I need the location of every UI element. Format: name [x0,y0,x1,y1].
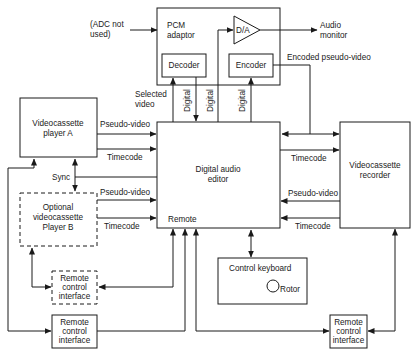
vcp-b-label-3: Player B [43,223,74,232]
vcp-b-label-1: Optional [43,203,74,212]
remote-if-left-label-1: Remote [60,318,89,327]
vcp-a-label-1: Videocassette [32,119,84,128]
vcp-a-label-2: player A [43,129,73,138]
remote-if-right-label-3: interface [333,336,365,345]
remote-if-left-label-2: control [62,327,87,336]
da-label: D/A [236,26,250,35]
rotor-label: Rotor [280,285,300,294]
remote-if-right-vcr-link [368,229,395,331]
encoder-block: Encoder [229,54,273,77]
remote-if-opt-editor-link [99,229,173,287]
editor-label-1: Digital audio [195,165,241,174]
digital-label-2: Digital [206,89,215,112]
editor-label-2: editor [208,175,229,184]
vcr-timecode-in-label: Timecode [291,154,327,163]
remote-control-interface-right-block: Remote control interface [330,315,367,348]
remote-control-interface-left-block: Remote control interface [52,315,97,348]
videocassette-recorder-block: Videocassette recorder [340,122,410,228]
digital-label-1: Digital [183,89,192,112]
pcm-editing-system-diagram: PCM adaptor Decoder Encoder D/A (ADC not… [0,0,420,357]
vcr-timecode-out-label: Timecode [295,222,331,231]
remote-if-left-editor-link [97,229,185,331]
videocassette-player-a-block: Videocassette player A [20,98,97,157]
selected-video-label-1: Selected [135,90,167,99]
pcm-adaptor-label-2: adaptor [167,31,195,40]
remote-if-opt-label-3: interface [59,292,91,301]
decoder-label: Decoder [169,61,200,70]
remote-if-opt-label-1: Remote [60,274,89,283]
audio-monitor-label-1: Audio [320,21,341,30]
vcr-label-1: Videocassette [349,161,401,170]
editor-remote-label: Remote [168,215,197,224]
remote-if-left-label-3: interface [59,336,91,345]
control-keyboard-label: Control keyboard [229,264,292,273]
decoder-block: Decoder [162,54,206,77]
b-timecode-label: Timecode [104,222,140,231]
optional-videocassette-player-b-block: Optional videocassette Player B [20,193,97,246]
vcr-label-2: recorder [360,171,391,180]
remote-if-right-label-2: control [336,327,361,336]
encoder-label: Encoder [236,61,267,70]
remote-if-right-label-1: Remote [334,318,363,327]
b-pseudo-video-label: Pseudo-video [100,188,151,197]
digital-label-3: Digital [238,89,247,112]
encoded-pseudo-video-label: Encoded pseudo-video [287,53,371,62]
a-timecode-label: Timecode [107,153,143,162]
vcp-b-remote-if-link [32,248,51,287]
pcm-adaptor-label-1: PCM [167,21,185,30]
selected-video-label-2: video [135,100,155,109]
sync-label: Sync [52,173,70,182]
digital-audio-editor-block: Digital audio editor Remote [157,122,280,228]
audio-monitor-label-2: monitor [320,31,348,40]
adc-note-2: used) [90,30,111,39]
vcp-b-label-2: videocassette [33,213,84,222]
vcr-pseudo-video-label: Pseudo-video [288,189,339,198]
adc-note-1: (ADC not [90,20,124,29]
control-keyboard-block: Control keyboard Rotor [218,258,307,304]
remote-if-opt-label-2: control [62,283,87,292]
a-pseudo-video-label: Pseudo-video [100,120,151,129]
remote-control-interface-optional-block: Remote control interface [52,271,97,304]
